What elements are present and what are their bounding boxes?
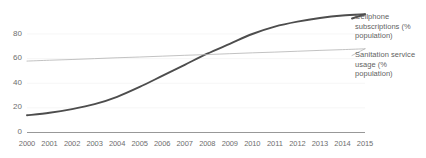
- line-chart: 020406080 200020012002200320042005200620…: [0, 0, 426, 158]
- series-lines: [27, 14, 365, 115]
- legend-label-sanitation-service-usage: Sanitation service usage (% population): [355, 50, 425, 79]
- y-tick-label: 60: [2, 54, 22, 62]
- y-tick-label: 20: [2, 103, 22, 111]
- series-line-cellphone-subscriptions: [27, 14, 365, 115]
- gridlines: [27, 34, 365, 108]
- y-tick-label: 40: [2, 79, 22, 87]
- x-tick-label: 2015: [352, 140, 378, 148]
- y-tick-label: 80: [2, 30, 22, 38]
- legend-label-cellphone-subscriptions: Cellphone subscriptions (% population): [355, 12, 425, 41]
- y-tick-label: 0: [2, 128, 22, 136]
